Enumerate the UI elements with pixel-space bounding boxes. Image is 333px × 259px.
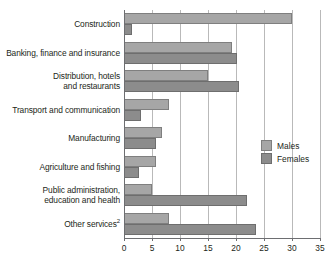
bar-males-6 [124, 184, 152, 195]
bar-females-7 [124, 224, 256, 235]
category-label: Manufacturing [0, 133, 120, 143]
bar-males-4 [124, 127, 162, 138]
category-label: Other services2 [0, 219, 120, 229]
legend-item-females[interactable]: Females [261, 152, 309, 165]
chart-legend: MalesFemales [261, 139, 331, 169]
x-tick-mark [124, 238, 125, 241]
bar-females-5 [124, 167, 139, 178]
gridline [264, 10, 265, 238]
category-axis: ConstructionBanking, finance and insuran… [0, 10, 120, 238]
category-label: Construction [0, 19, 120, 29]
x-tick-mark [236, 238, 237, 241]
bar-females-3 [124, 110, 141, 121]
x-tick-label: 10 [175, 243, 184, 253]
bar-males-3 [124, 99, 169, 110]
x-tick-label: 5 [150, 243, 155, 253]
x-tick-mark [180, 238, 181, 241]
x-tick-mark [320, 238, 321, 241]
x-tick-label: 25 [259, 243, 268, 253]
bar-males-2 [124, 70, 208, 81]
bar-females-1 [124, 53, 237, 64]
bar-chart: ConstructionBanking, finance and insuran… [0, 0, 333, 259]
category-label: Banking, finance and insurance [0, 48, 120, 58]
category-label: Distribution, hotels and restaurants [0, 71, 120, 91]
gridline [320, 10, 321, 238]
bar-females-6 [124, 195, 247, 206]
x-tick-label: 30 [287, 243, 296, 253]
legend-label: Males [277, 141, 299, 151]
bar-males-5 [124, 156, 156, 167]
category-label: Agriculture and fishing [0, 162, 120, 172]
legend-swatch-icon [261, 153, 272, 164]
x-tick-label: 0 [122, 243, 127, 253]
x-tick-label: 20 [231, 243, 240, 253]
category-label: Transport and communication [0, 105, 120, 115]
plot-area [124, 10, 320, 238]
bar-females-2 [124, 81, 239, 92]
x-tick-label: 35 [315, 243, 324, 253]
x-tick-mark [264, 238, 265, 241]
category-label: Public administration, education and hea… [0, 185, 120, 205]
x-axis-ticks: 05101520253035 [124, 238, 321, 258]
bar-males-0 [124, 13, 292, 24]
legend-label: Females [277, 154, 309, 164]
gridline [292, 10, 293, 238]
y-axis-line [124, 10, 125, 239]
bar-females-0 [124, 24, 132, 35]
bar-females-4 [124, 138, 156, 149]
bar-males-7 [124, 213, 169, 224]
x-tick-label: 15 [203, 243, 212, 253]
legend-item-males[interactable]: Males [261, 139, 299, 152]
legend-swatch-icon [261, 140, 272, 151]
x-tick-mark [292, 238, 293, 241]
x-tick-mark [208, 238, 209, 241]
bar-males-1 [124, 42, 232, 53]
x-tick-mark [152, 238, 153, 241]
